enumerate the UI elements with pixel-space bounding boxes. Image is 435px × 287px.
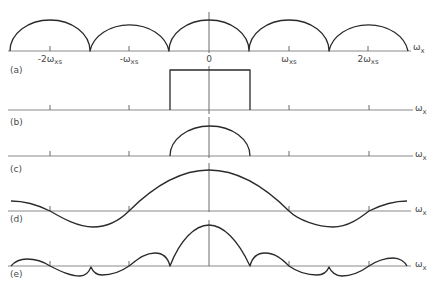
axis-label-omega-x: ωx (415, 149, 427, 162)
rect-filter-curve (170, 70, 250, 110)
panel-d: (d) ωx (8, 163, 427, 227)
panel-label: (a) (10, 65, 23, 75)
panel-label: (e) (10, 269, 23, 279)
tick-label-minus-wxs: -ωxs (120, 54, 139, 66)
axis-label-omega-x: ωx (415, 103, 427, 116)
tick-labels: -2ωxs -ωxs 0 ωxs 2ωxs (38, 54, 379, 66)
panel-c: (c) ωx (8, 117, 427, 174)
axis-label-omega-x: ωx (415, 259, 427, 272)
axis-label-omega-x: ωx (413, 42, 425, 55)
panel-label: (c) (10, 164, 22, 174)
axis-label-omega-x: ωx (415, 204, 427, 217)
tick-label-minus-2wxs: -2ωxs (38, 54, 63, 66)
panel-label: (b) (10, 117, 23, 127)
tick-label-2wxs: 2ωxs (357, 54, 378, 66)
panel-b: (b) ωx (8, 66, 427, 127)
panel-e: (e) ωx (8, 220, 427, 279)
tick-label-wxs: ωxs (281, 54, 297, 66)
panel-label: (d) (10, 214, 23, 224)
tick-label-zero: 0 (206, 54, 212, 64)
sampling-spectra-figure: -2ωxs -ωxs 0 ωxs 2ωxs (a) ωx (b) ωx (0, 0, 435, 287)
panel-a: -2ωxs -ωxs 0 ωxs 2ωxs (a) ωx (8, 12, 425, 75)
baseband-spectrum-curve (170, 126, 250, 156)
